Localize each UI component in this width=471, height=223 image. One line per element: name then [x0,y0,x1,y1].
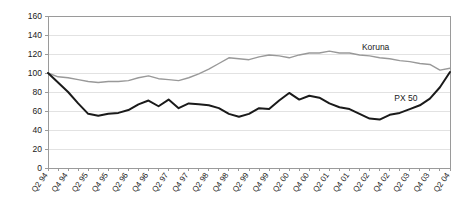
y-axis-tick-label: 80 [33,87,43,97]
x-axis-tick-label-group: Q4 00 [291,171,311,194]
x-axis-tick-label-group: Q4 99 [251,171,271,194]
x-axis-tick-label: Q2 99 [231,171,251,194]
x-axis-tick-label: Q4 97 [170,171,190,194]
series-label-px-50: PX 50 [394,93,417,103]
x-axis-tick-label-group: Q4 95 [90,171,110,194]
x-axis-tick-label: Q2 97 [150,171,170,194]
x-axis-tick-label: Q2 01 [311,171,331,194]
x-axis-tick-label-group: Q4 02 [371,171,391,194]
x-axis-tick-label-group: Q4 94 [50,171,70,194]
y-axis-tick-label: 100 [28,68,42,78]
x-axis-tick-labels: Q2 94Q4 94Q2 95Q4 95Q2 96Q4 96Q2 97Q4 97… [30,171,452,194]
x-axis-tick-label: Q2 98 [191,171,211,194]
x-axis-tick-label: Q2 95 [70,171,90,194]
x-axis-tick-label-group: Q2 03 [392,171,412,194]
x-axis-tick-label: Q2 03 [392,171,412,194]
x-axis-tick-label: Q2 04 [432,171,452,194]
x-axis-tick-label-group: Q4 01 [331,171,351,194]
x-axis-tick-label-group: Q2 97 [150,171,170,194]
x-axis-tick-label: Q4 01 [331,171,351,194]
y-axis-tick-label: 60 [33,106,43,116]
x-axis-tick-label: Q4 95 [90,171,110,194]
x-axis-tick-label: Q4 98 [211,171,231,194]
x-axis-tick-label: Q4 94 [50,171,70,194]
x-axis-tick-label: Q4 00 [291,171,311,194]
x-axis-tick-label: Q2 00 [271,171,291,194]
x-axis-tick-label-group: Q4 97 [170,171,190,194]
y-axis-tick-label: 20 [33,144,43,154]
x-axis-tick-label-group: Q2 98 [191,171,211,194]
x-axis-tick-label-group: Q4 03 [412,171,432,194]
x-axis-tick-label-group: Q2 96 [110,171,130,194]
x-axis-tick-label: Q4 02 [371,171,391,194]
x-axis-tick-label-group: Q2 00 [271,171,291,194]
x-axis-tick-label: Q2 02 [351,171,371,194]
x-axis-tick-label: Q4 99 [251,171,271,194]
x-axis-tick-label-group: Q2 01 [311,171,331,194]
chart-container: 020406080100120140160 Q2 94Q4 94Q2 95Q4 … [0,0,471,223]
line-chart: 020406080100120140160 Q2 94Q4 94Q2 95Q4 … [0,0,471,223]
x-axis-tick-label: Q2 96 [110,171,130,194]
y-axis-tick-label: 160 [28,11,42,21]
x-axis-tick-label-group: Q2 99 [231,171,251,194]
x-axis-tick-label-group: Q2 94 [30,171,50,194]
y-axis-tick-label: 140 [28,30,42,40]
x-axis-tick-label: Q4 03 [412,171,432,194]
x-axis-tick-label-group: Q2 95 [70,171,90,194]
x-axis-tick-label: Q4 96 [130,171,150,194]
x-axis-tick-label-group: Q4 96 [130,171,150,194]
x-axis-tick-label-group: Q2 02 [351,171,371,194]
y-axis-tick-label: 120 [28,49,42,59]
x-axis-tick-label-group: Q4 98 [211,171,231,194]
series-label-koruna: Koruna [362,42,390,52]
y-axis-tick-label: 40 [33,125,43,135]
y-axis-tick-labels: 020406080100120140160 [28,11,48,173]
x-axis-tick-label-group: Q2 04 [432,171,452,194]
x-axis-tick-label: Q2 94 [30,171,50,194]
